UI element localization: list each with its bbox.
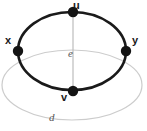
vertex-label-v: v [61,92,67,103]
graph-diagram-svg [0,0,147,131]
vertex-v-dot [68,86,78,96]
edge-label-e: e [68,48,73,59]
vertex-label-x: x [5,35,11,46]
vertex-y-dot [121,46,131,56]
vertex-x-dot [13,46,23,56]
vertex-label-y: y [132,35,138,46]
vertex-label-u: u [73,0,80,11]
outer-ellipse-d [2,50,142,120]
edge-label-d: d [49,112,55,123]
figure-container: u x y v e d [0,0,147,131]
